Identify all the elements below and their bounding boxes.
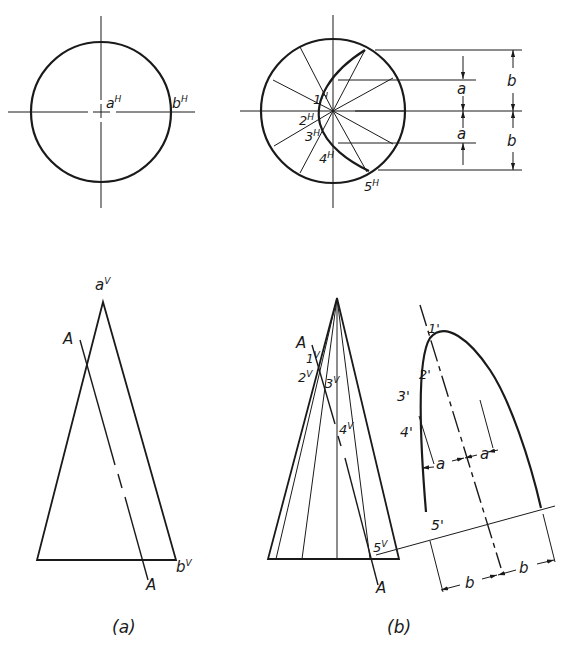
label-plane-b-bottom: A xyxy=(375,579,386,597)
cone-section-drawing: aH bH a a xyxy=(0,0,571,652)
label-b-h: bH xyxy=(172,94,188,111)
label-plane-a-bottom: A xyxy=(145,576,156,594)
ts-dim-b1-l xyxy=(441,585,460,590)
label-4v: 4V xyxy=(339,421,354,437)
ts-dim-b2-l xyxy=(498,570,516,575)
label-1v: 1V xyxy=(306,350,321,366)
label-2-prime: 2' xyxy=(419,367,431,382)
ts-dim-label-b2: b xyxy=(519,559,529,577)
ts-dim-b1-r xyxy=(482,575,497,579)
ts-dim-b2-r xyxy=(537,560,554,564)
label-3-prime: 3' xyxy=(397,388,410,404)
label-plane-b-top: A xyxy=(295,334,306,352)
label-4-prime: 4' xyxy=(400,424,413,440)
dim-label-b2: b xyxy=(507,132,517,150)
label-1-prime: 1' xyxy=(428,321,440,336)
ts-dim-label-a1: a xyxy=(436,455,445,473)
cutting-plane-a-dash xyxy=(118,474,122,488)
true-shape-chord-right xyxy=(480,400,493,448)
label-a-h: aH xyxy=(106,94,122,111)
cutting-plane-b-dash xyxy=(338,436,341,446)
label-b-v: bV xyxy=(176,558,193,576)
true-shape-base-line xyxy=(376,506,555,555)
cone-front-b xyxy=(268,298,399,559)
caption-a: (a) xyxy=(112,617,136,637)
ts-dim-a1-r xyxy=(452,458,464,461)
view-a-top: aH bH xyxy=(8,16,195,208)
caption-b: (b) xyxy=(387,617,411,637)
label-5h: 5H xyxy=(364,178,379,194)
dim-label-b1: b xyxy=(507,72,517,90)
label-2h: 2H xyxy=(299,112,314,128)
view-a-front: aV bV A A xyxy=(37,276,193,594)
cutting-plane-a-upper xyxy=(80,340,115,465)
label-plane-a-top: A xyxy=(62,330,73,348)
label-5-prime: 5' xyxy=(431,517,444,533)
ts-dim-label-a2: a xyxy=(480,445,489,463)
cone-elements xyxy=(276,298,370,559)
label-1h: 1H xyxy=(313,91,328,107)
dim-label-a1: a xyxy=(457,80,466,98)
label-3v: 3V xyxy=(325,375,340,391)
label-a-v: aV xyxy=(95,276,111,294)
dim-label-a2: a xyxy=(457,125,466,143)
ts-dim-label-b1: b xyxy=(465,574,475,592)
view-b-top: a a b b 1H 2H 3H 4H 5H xyxy=(240,15,522,208)
true-shape-ext-left xyxy=(430,541,443,592)
cone-front-a xyxy=(37,302,176,560)
label-3h: 3H xyxy=(305,128,320,144)
cutting-plane-a-lower xyxy=(125,497,148,580)
true-shape-ext-right xyxy=(543,514,555,562)
view-b-front: A A 1V 2V 3V 4V 5V xyxy=(268,298,399,597)
label-4h: 4H xyxy=(319,150,334,166)
label-2v: 2V xyxy=(298,369,313,385)
ts-dim-a2-r xyxy=(488,450,498,452)
cutting-plane-b-lower xyxy=(345,458,378,585)
true-shape-section: a a b b 1' 2' 3' 4' 5' xyxy=(376,305,555,592)
true-shape-curve xyxy=(421,331,542,512)
